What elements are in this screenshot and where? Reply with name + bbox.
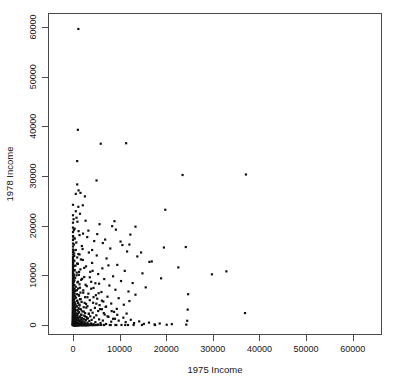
data-point xyxy=(124,270,126,272)
data-point xyxy=(110,302,112,304)
data-point xyxy=(77,281,79,283)
data-point xyxy=(84,315,86,317)
data-point xyxy=(76,160,78,162)
data-point xyxy=(81,278,83,280)
y-axis-tick-label: 10000 xyxy=(28,263,38,288)
data-point xyxy=(116,308,118,310)
data-point xyxy=(106,296,108,298)
data-point xyxy=(127,324,129,326)
data-point xyxy=(82,289,84,291)
data-point xyxy=(114,324,116,326)
data-point xyxy=(72,222,74,224)
data-point xyxy=(177,266,179,268)
data-point xyxy=(109,247,111,249)
data-point xyxy=(128,243,130,245)
data-point xyxy=(73,298,75,300)
data-point xyxy=(77,230,79,232)
data-point xyxy=(76,221,78,223)
data-point xyxy=(92,296,94,298)
data-point xyxy=(72,245,74,247)
x-axis-tick-label: 0 xyxy=(70,344,75,354)
data-point xyxy=(97,273,99,275)
data-point xyxy=(118,297,120,299)
data-point xyxy=(128,300,130,302)
data-point xyxy=(73,295,75,297)
data-point xyxy=(75,210,77,212)
y-axis-tick-label: 60000 xyxy=(28,14,38,39)
data-point xyxy=(78,294,80,296)
data-point xyxy=(83,306,85,308)
y-axis-tick-group: 0100002000030000400005000060000 xyxy=(28,14,48,327)
data-point xyxy=(84,302,86,304)
data-point xyxy=(80,298,82,300)
data-point xyxy=(89,299,91,301)
data-point xyxy=(98,324,100,326)
data-point xyxy=(82,233,84,235)
data-point xyxy=(103,312,105,314)
data-point xyxy=(185,246,187,248)
data-point xyxy=(138,320,140,322)
data-point xyxy=(163,246,165,248)
data-point xyxy=(81,245,83,247)
data-point xyxy=(76,305,78,307)
data-point xyxy=(97,310,99,312)
data-point xyxy=(85,324,87,326)
data-point xyxy=(72,258,74,260)
data-point xyxy=(93,240,95,242)
data-point xyxy=(77,129,79,131)
data-point xyxy=(91,319,93,321)
data-point xyxy=(78,283,80,285)
data-point xyxy=(81,324,83,326)
data-point xyxy=(88,320,90,322)
data-point xyxy=(96,298,98,300)
data-point xyxy=(78,271,80,273)
data-point xyxy=(96,254,98,256)
data-point xyxy=(151,260,153,262)
data-point xyxy=(125,321,127,323)
data-point xyxy=(75,217,77,219)
data-point xyxy=(79,308,81,310)
data-point xyxy=(86,236,88,238)
data-point xyxy=(95,303,97,305)
data-point xyxy=(76,314,78,316)
data-point xyxy=(85,319,87,321)
data-point xyxy=(80,258,82,260)
data-point xyxy=(123,304,125,306)
y-axis-tick-label: 0 xyxy=(28,322,38,327)
data-point xyxy=(164,209,166,211)
data-point xyxy=(130,319,132,321)
data-point xyxy=(109,324,111,326)
y-axis-tick-label: 30000 xyxy=(28,163,38,188)
data-point xyxy=(102,242,104,244)
data-point xyxy=(86,296,88,298)
data-point xyxy=(75,274,77,276)
data-point xyxy=(90,309,92,311)
data-point xyxy=(136,255,138,257)
data-point xyxy=(73,265,75,267)
data-point xyxy=(76,183,78,185)
data-point xyxy=(76,289,78,291)
data-point xyxy=(92,302,94,304)
data-point xyxy=(116,264,118,266)
y-axis-tick-label: 20000 xyxy=(28,213,38,238)
x-axis-tick-label: 20000 xyxy=(154,344,179,354)
data-point xyxy=(73,269,75,271)
data-point xyxy=(76,293,78,295)
data-point xyxy=(120,324,122,326)
data-point xyxy=(126,250,128,252)
data-point xyxy=(87,293,89,295)
data-point xyxy=(94,321,96,323)
data-point xyxy=(88,313,90,315)
data-point xyxy=(160,277,162,279)
data-point xyxy=(133,324,135,326)
data-point xyxy=(99,322,101,324)
data-point xyxy=(105,323,107,325)
data-point xyxy=(134,226,136,228)
data-point xyxy=(73,290,75,292)
data-point xyxy=(89,276,91,278)
data-point xyxy=(83,267,85,269)
data-point xyxy=(72,239,74,241)
data-point xyxy=(79,192,81,194)
data-point xyxy=(83,276,85,278)
data-point xyxy=(126,312,128,314)
